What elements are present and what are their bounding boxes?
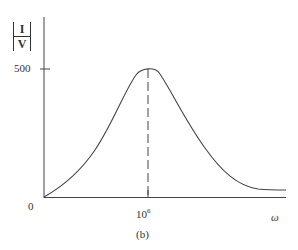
x-axis-label: ω <box>271 211 279 223</box>
y-tick-label-500: 500 <box>14 62 31 74</box>
resonance-curve <box>44 69 286 197</box>
x-tick-base: 10 <box>136 208 147 220</box>
x-tick-label-resonance: 106 <box>136 207 151 220</box>
y-axis-label: I V <box>13 22 31 51</box>
origin-label: 0 <box>28 200 34 212</box>
x-tick-exponent: 6 <box>147 207 151 215</box>
y-label-numerator: I <box>14 22 30 37</box>
y-label-denominator: V <box>14 37 30 51</box>
figure-caption: (b) <box>136 228 149 240</box>
